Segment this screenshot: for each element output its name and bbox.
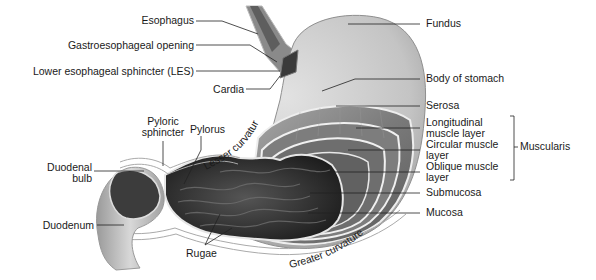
label-duodenum: Duodenum [43, 220, 94, 231]
label-gastroesophageal-opening: Gastroesophageal opening [68, 40, 194, 51]
label-longitudinal-muscle-layer: Longitudinal muscle layer [426, 117, 485, 139]
label-pylorus: Pylorus [190, 124, 225, 135]
label-pyloric-sphincter: Pyloric sphincter [140, 116, 186, 138]
label-oblique-muscle-layer: Oblique muscle layer [426, 161, 498, 183]
label-mucosa: Mucosa [426, 207, 463, 218]
label-muscularis: Muscularis [520, 141, 570, 152]
stomach-lumen [165, 155, 343, 241]
label-les: Lower esophageal sphincter (LES) [33, 66, 194, 77]
label-cardia: Cardia [213, 84, 244, 95]
label-duodenal-bulb: Duodenal bulb [47, 162, 92, 184]
label-circular-muscle-layer: Circular muscle layer [426, 139, 498, 161]
label-body-of-stomach: Body of stomach [426, 73, 504, 84]
label-submucosa: Submucosa [426, 187, 481, 198]
stomach-diagram: Lesser curvature Greater curvature Esoph… [0, 0, 596, 280]
label-fundus: Fundus [426, 18, 461, 29]
duodenum-shape [97, 167, 165, 270]
label-serosa: Serosa [426, 100, 459, 111]
label-rugae: Rugae [186, 248, 217, 259]
label-esophagus: Esophagus [141, 15, 194, 26]
